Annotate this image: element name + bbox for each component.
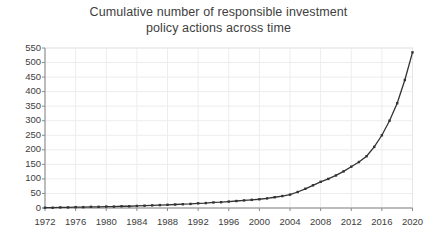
chart-figure: Cumulative number of responsible investm… [0, 0, 437, 238]
x-tick-label: 1976 [61, 216, 91, 227]
x-tick-label: 2016 [367, 216, 397, 227]
x-tick-label: 2004 [275, 216, 305, 227]
x-tick-label: 1992 [183, 216, 213, 227]
x-axis-tick-labels: 1972197619801984198819921996200020042008… [0, 0, 437, 238]
x-tick-label: 2020 [398, 216, 428, 227]
x-tick-label: 1980 [91, 216, 121, 227]
x-tick-label: 1984 [122, 216, 152, 227]
x-tick-label: 2008 [306, 216, 336, 227]
x-tick-label: 1988 [153, 216, 183, 227]
x-tick-label: 2000 [244, 216, 274, 227]
x-tick-label: 1972 [30, 216, 60, 227]
x-tick-label: 2012 [336, 216, 366, 227]
x-tick-label: 1996 [214, 216, 244, 227]
